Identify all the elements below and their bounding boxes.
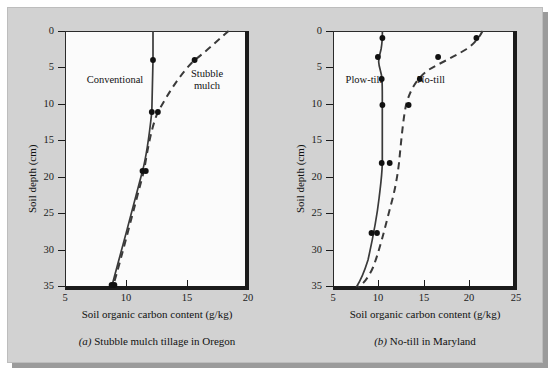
subplot-caption-enum-a: (a) (79, 335, 92, 347)
data-point (374, 230, 380, 236)
x-tick-label: 20 (236, 293, 260, 304)
data-point (192, 57, 198, 63)
x-tick-mark (469, 280, 470, 287)
data-point (155, 109, 161, 115)
y-tick-mark (326, 250, 333, 251)
y-axis-title-a: Soil depth (cm) (26, 145, 38, 213)
data-point (149, 109, 155, 115)
x-tick-label: 15 (412, 293, 436, 304)
subplot-caption-enum-b: (b) (374, 335, 387, 347)
y-tick-label: 30 (300, 245, 322, 256)
y-tick-mark (326, 140, 333, 141)
x-tick-label: 20 (457, 293, 481, 304)
y-tick-mark (58, 104, 65, 105)
data-point (143, 168, 149, 174)
x-tick-mark (65, 280, 66, 287)
y-tick-mark (58, 213, 65, 214)
data-point (150, 57, 156, 63)
y-tick-mark (58, 286, 65, 287)
data-point (369, 230, 375, 236)
data-point (379, 160, 385, 166)
subplot-caption-a: (a) Stubble mulch tillage in Oregon (33, 335, 281, 347)
y-tick-mark (326, 104, 333, 105)
data-point (474, 35, 480, 41)
y-tick-mark (58, 140, 65, 141)
x-axis-title-a: Soil organic carbon content (g/kg) (33, 308, 281, 320)
x-tick-mark (333, 280, 334, 287)
series-path-no-till (358, 31, 482, 287)
y-tick-label: 30 (32, 245, 54, 256)
y-tick-mark (326, 177, 333, 178)
x-tick-label: 15 (175, 293, 199, 304)
y-axis-title-b: Soil depth (cm) (294, 145, 306, 213)
x-tick-mark (378, 280, 379, 287)
x-tick-label: 25 (504, 293, 528, 304)
data-point (380, 35, 386, 41)
data-point (387, 160, 393, 166)
y-tick-label: 0 (300, 26, 322, 37)
plot-curves-a (8, 8, 276, 308)
y-tick-label: 0 (32, 26, 54, 37)
x-tick-mark (515, 280, 516, 287)
x-tick-label: 10 (366, 293, 390, 304)
y-tick-mark (326, 213, 333, 214)
y-tick-label: 5 (300, 62, 322, 73)
y-tick-label: 35 (32, 281, 54, 292)
x-tick-mark (126, 280, 127, 287)
subplot-panel-a: 0 5 10 15 20 25 30 35 5 10 15 20 Soil or… (8, 8, 276, 362)
series-label-no-till: No-till (405, 74, 457, 86)
y-tick-mark (58, 177, 65, 178)
y-tick-mark (326, 31, 333, 32)
y-tick-label: 35 (300, 281, 322, 292)
series-label-stubble-mulch: Stubble mulch (178, 68, 236, 92)
figure-panel: 0 5 10 15 20 25 30 35 5 10 15 20 Soil or… (7, 7, 543, 363)
y-tick-label: 5 (32, 62, 54, 73)
y-tick-label: 10 (32, 99, 54, 110)
subplot-caption-b: (b) No-till in Maryland (301, 335, 549, 347)
subplot-caption-text-a: Stubble mulch tillage in Oregon (94, 335, 235, 347)
x-tick-mark (247, 280, 248, 287)
plot-curves-b (276, 8, 544, 308)
data-point (406, 102, 412, 108)
x-tick-mark (424, 280, 425, 287)
series-label-plow-till: Plow-till (334, 74, 394, 86)
figure-root: 0 5 10 15 20 25 30 35 5 10 15 20 Soil or… (0, 0, 554, 374)
x-tick-label: 5 (53, 293, 77, 304)
subplot-caption-text-b: No-till in Maryland (390, 335, 476, 347)
x-tick-label: 5 (321, 293, 345, 304)
data-point (435, 54, 441, 60)
x-tick-mark (187, 280, 188, 287)
y-tick-mark (58, 67, 65, 68)
y-tick-mark (58, 250, 65, 251)
x-tick-label: 10 (114, 293, 138, 304)
data-point (380, 102, 386, 108)
data-point (375, 54, 381, 60)
series-label-conventional: Conventional (72, 74, 158, 86)
subplot-panel-b: 0 5 10 15 20 25 30 35 5 10 15 20 25 Soil… (276, 8, 544, 362)
y-tick-mark (326, 286, 333, 287)
y-tick-mark (58, 31, 65, 32)
y-tick-mark (326, 67, 333, 68)
data-point (112, 282, 118, 288)
x-axis-title-b: Soil organic carbon content (g/kg) (301, 308, 549, 320)
y-tick-label: 10 (300, 99, 322, 110)
